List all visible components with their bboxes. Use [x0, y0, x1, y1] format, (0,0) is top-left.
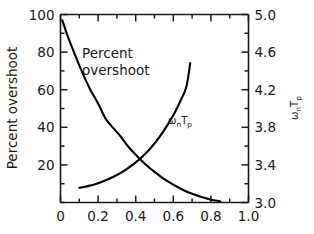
annotation-percent-overshoot-line2: overshoot — [82, 62, 150, 78]
y-tick-label-3: 80 — [37, 44, 54, 60]
x-tick-label-1: 0.2 — [87, 208, 108, 224]
y2-tick-label-4: 4.6 — [255, 44, 276, 60]
x-tick-label-0: 0 — [56, 208, 65, 224]
y-tick-label-0: 20 — [37, 157, 54, 173]
overshoot-vs-damping-ratio-chart: 00.20.40.60.81.0204060801003.03.43.84.24… — [0, 0, 314, 234]
y-tick-label-2: 60 — [37, 82, 54, 98]
left-axis-title-text: Percent overshoot — [4, 47, 20, 170]
chart-figure: 00.20.40.60.81.0204060801003.03.43.84.24… — [0, 0, 314, 234]
y2-tick-label-0: 3.0 — [255, 195, 276, 211]
left-axis-title: Percent overshoot — [4, 47, 20, 170]
y-tick-label-1: 40 — [37, 119, 54, 135]
y2-tick-label-3: 4.2 — [255, 82, 276, 98]
x-tick-label-4: 0.8 — [200, 208, 221, 224]
x-tick-label-3: 0.6 — [163, 208, 184, 224]
annotation-percent-overshoot-line1: Percent — [82, 45, 133, 61]
y2-tick-label-1: 3.4 — [255, 157, 276, 173]
y-tick-label-4: 100 — [29, 7, 55, 23]
x-tick-label-2: 0.4 — [125, 208, 146, 224]
y2-tick-label-2: 3.8 — [255, 119, 276, 135]
y2-tick-label-5: 5.0 — [255, 7, 276, 23]
